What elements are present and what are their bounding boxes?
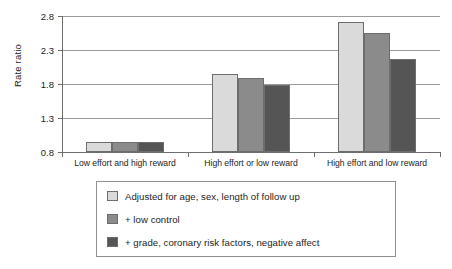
legend-item: + grade, coronary risk factors, negative… — [107, 235, 319, 249]
bar — [390, 59, 416, 152]
y-tick-mark — [58, 16, 63, 17]
x-tick-mark — [440, 152, 441, 157]
chart-legend: Adjusted for age, sex, length of follow … — [96, 181, 396, 257]
y-tick-mark — [58, 50, 63, 51]
legend-swatch-icon — [107, 191, 118, 201]
x-tick-mark — [62, 152, 63, 157]
y-tick-label: 0.8 — [41, 147, 54, 158]
gridline — [62, 16, 440, 17]
bar — [338, 22, 364, 152]
legend-item: Adjusted for age, sex, length of follow … — [107, 189, 300, 203]
bar — [364, 33, 390, 152]
bar — [212, 74, 238, 152]
plot-area: 0.81.31.82.32.8 — [62, 16, 440, 152]
bar — [238, 78, 264, 152]
x-axis-category-label: Low effort and high reward — [62, 158, 188, 168]
legend-swatch-icon — [107, 214, 118, 224]
y-tick-mark — [58, 84, 63, 85]
legend-item-label: + low control — [125, 214, 180, 225]
x-tick-mark — [188, 152, 189, 157]
y-tick-label: 2.8 — [41, 11, 54, 22]
legend-item-label: Adjusted for age, sex, length of follow … — [125, 191, 300, 202]
chart-figure: Rate ratio 0.81.31.82.32.8 Low effort an… — [0, 0, 452, 269]
y-tick-label: 1.8 — [41, 79, 54, 90]
bar — [86, 142, 112, 152]
x-axis-line — [62, 152, 440, 153]
y-tick-label: 1.3 — [41, 113, 54, 124]
bar — [112, 142, 138, 152]
y-tick-mark — [58, 118, 63, 119]
legend-item-label: + grade, coronary risk factors, negative… — [125, 237, 319, 248]
legend-item: + low control — [107, 212, 180, 226]
x-axis-category-label: High effort and low reward — [314, 158, 440, 168]
bar — [138, 142, 164, 152]
bar — [264, 85, 290, 152]
y-tick-label: 2.3 — [41, 45, 54, 56]
y-axis-title: Rate ratio — [12, 31, 23, 101]
x-tick-mark — [314, 152, 315, 157]
legend-swatch-icon — [107, 237, 118, 247]
x-axis-category-label: High effort or low reward — [188, 158, 314, 168]
